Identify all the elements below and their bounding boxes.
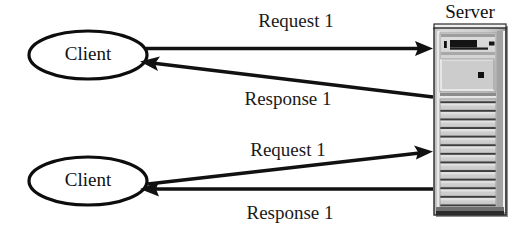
diagram-canvas: Server — [0, 0, 517, 239]
client-node-bottom[interactable]: Client — [29, 157, 147, 205]
flow-top-request-label: Request 1 — [258, 10, 333, 31]
flow-bottom-request-label: Request 1 — [250, 139, 325, 160]
client-server-diagram: Server — [0, 0, 517, 239]
flow-bottom-response-label: Response 1 — [246, 202, 333, 223]
client-label-top: Client — [65, 43, 112, 64]
client-label-bottom: Client — [65, 169, 112, 190]
server-drive-slot — [450, 40, 477, 48]
server-button-icon — [489, 42, 495, 46]
server-led-icon — [444, 41, 447, 48]
client-node-top[interactable]: Client — [29, 31, 147, 79]
server-power-indicator — [478, 72, 484, 78]
server-tower-icon — [434, 24, 508, 217]
flow-top-response-label: Response 1 — [244, 88, 331, 109]
server-node[interactable]: Server — [434, 1, 508, 217]
server-label: Server — [445, 1, 495, 22]
server-vent-grille — [440, 99, 496, 207]
